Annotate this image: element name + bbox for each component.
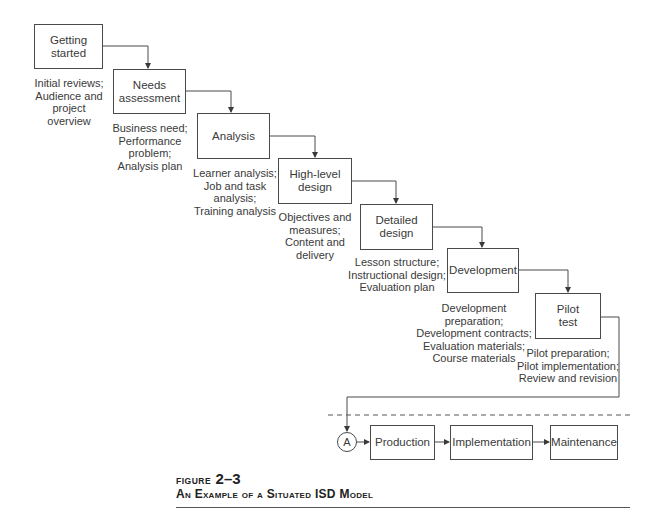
note-analysis: Learner analysis; Job and task analysis;… [190,167,280,217]
stage-maintenance: Maintenance [550,425,618,460]
note-pilot-test: Pilot preparation; Pilot implementation;… [516,347,620,385]
figure-label: FIGURE [176,476,211,486]
note-getting-started: Initial reviews; Audience and project ov… [28,77,110,127]
stage-analysis: Analysis [197,113,270,159]
stage-pilot-test: Pilot test [535,293,601,339]
stage-production: Production [370,425,435,460]
stage-high-level-design: High-level design [278,158,352,204]
figure-caption: FIGURE 2–3 An Example of a Situated ISD … [176,470,373,501]
figure-title: An Example of a Situated ISD Model [176,487,373,501]
stage-needs-assessment: Needs assessment [113,69,186,114]
stage-detailed-design: Detailed design [360,204,433,250]
caption-rule [176,507,630,508]
note-needs-assessment: Business need; Performance problem; Anal… [108,122,192,172]
note-detailed-design: Lesson structure; Instructional design; … [346,256,448,294]
connector-a-circle: A [337,432,357,452]
note-high-level-design: Objectives and measures; Content and del… [272,211,358,261]
stage-development: Development [447,248,519,293]
stage-implementation: Implementation [450,425,533,460]
stage-getting-started: Getting started [34,24,103,69]
figure-number: 2–3 [216,470,241,487]
